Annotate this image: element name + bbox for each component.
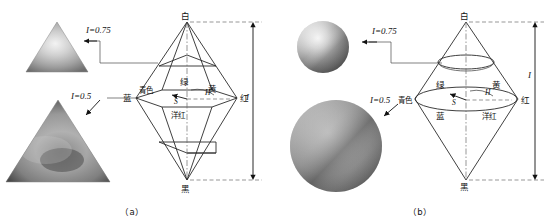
label-black: 黑 bbox=[181, 184, 190, 194]
callout-label-075: I=0.75 bbox=[371, 26, 397, 36]
caption-b: （b） bbox=[408, 207, 431, 217]
bicone-wireframe bbox=[415, 22, 518, 180]
intensity-0.5-sphere-swatch bbox=[290, 100, 382, 192]
saturation-symbol: S bbox=[452, 98, 456, 107]
callout-label-05: I=0.5 bbox=[369, 95, 391, 105]
intensity-dimension: I bbox=[469, 22, 544, 180]
panel-b-drawing: I=0.75 I=0.5 bbox=[276, 0, 552, 224]
intensity-0.75-triangle-swatch bbox=[24, 20, 92, 76]
saturation-symbol: S bbox=[174, 97, 178, 106]
callout-intensity-075: I=0.75 bbox=[362, 26, 442, 63]
hexcone-wireframe bbox=[136, 22, 237, 180]
panel-a-drawing: I=0.75 I=0.5 bbox=[0, 0, 276, 224]
label-magenta: 洋红 bbox=[171, 110, 186, 120]
label-green: 绿 bbox=[180, 77, 189, 87]
intensity-0.5-triangle-swatch bbox=[4, 98, 114, 184]
label-yellow: 黄 bbox=[208, 84, 217, 94]
label-red: 红 bbox=[521, 95, 530, 105]
callout-intensity-05: I=0.5 bbox=[369, 95, 398, 116]
figure-hsi-color-model: I=0.75 I=0.5 bbox=[0, 0, 552, 224]
label-yellow: 黄 bbox=[492, 80, 501, 90]
panel-b: I=0.75 I=0.5 bbox=[276, 0, 552, 224]
label-blue: 蓝 bbox=[123, 93, 132, 103]
caption-a: （a） bbox=[120, 207, 143, 217]
callout-label-075: I=0.75 bbox=[85, 25, 111, 35]
label-cyan: 青色 bbox=[398, 95, 413, 105]
label-magenta: 洋红 bbox=[482, 111, 497, 121]
intensity-0.75-sphere-swatch bbox=[297, 21, 349, 73]
intensity-dimension: I bbox=[190, 22, 262, 180]
callout-label-05: I=0.5 bbox=[70, 91, 92, 101]
label-cyan: 青色 bbox=[139, 85, 154, 95]
label-white: 白 bbox=[181, 11, 190, 21]
callout-intensity-075: I=0.75 bbox=[84, 25, 158, 63]
hue-symbol: H bbox=[484, 88, 491, 97]
panel-a: I=0.75 I=0.5 bbox=[0, 0, 276, 224]
label-blue: 蓝 bbox=[436, 111, 445, 121]
dimension-label-I: I bbox=[527, 70, 532, 80]
label-black: 黑 bbox=[460, 182, 469, 192]
label-green: 绿 bbox=[436, 80, 445, 90]
dimension-label-I: I bbox=[245, 92, 250, 102]
label-white: 白 bbox=[460, 11, 469, 21]
